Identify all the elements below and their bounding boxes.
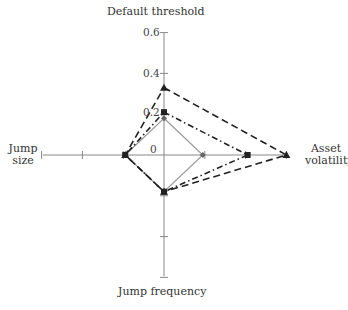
tick-label-0: 0 [150, 143, 157, 155]
tick-label-0.6: 0.6 [143, 26, 160, 38]
axis-label-top: Default threshold [107, 6, 205, 18]
axis-label-left-line2: size [8, 155, 38, 167]
series-dashed [125, 88, 286, 192]
tick-label-0.4: 0.4 [143, 67, 160, 79]
axis-label-bottom: Jump frequency [118, 286, 206, 298]
marker-square [161, 109, 167, 115]
axis-label-right-line2: volatility [305, 155, 347, 167]
radar-chart [0, 0, 348, 310]
axis-label-right: Asset volatility [305, 143, 347, 167]
chart-series [121, 84, 290, 195]
marker-square [245, 152, 251, 158]
axis-label-left: Jump size [8, 143, 38, 167]
tick-label-0.2: 0.2 [143, 106, 160, 118]
marker-triangle [160, 84, 168, 91]
